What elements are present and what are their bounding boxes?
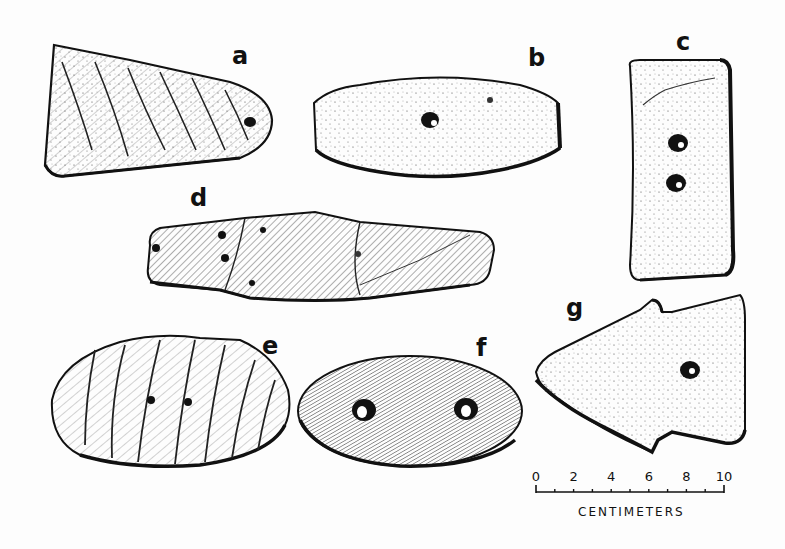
perforation bbox=[666, 174, 686, 192]
artifact-d bbox=[148, 212, 494, 301]
perforation bbox=[421, 112, 439, 128]
perforation bbox=[668, 134, 688, 152]
artifact-e bbox=[52, 336, 290, 467]
scale-tick-6: 6 bbox=[645, 470, 653, 483]
perforation bbox=[249, 280, 255, 286]
scale-tick-8: 8 bbox=[682, 470, 690, 483]
scale-bar bbox=[536, 485, 724, 493]
scale-tick-2: 2 bbox=[569, 470, 577, 483]
perforation bbox=[184, 398, 192, 406]
figure-plate: a b c d e f g 0 2 4 6 8 10 CENTIMETERS bbox=[0, 0, 785, 549]
perforation bbox=[244, 117, 256, 127]
artifact-drawings bbox=[0, 0, 785, 549]
perforation bbox=[218, 231, 226, 239]
label-f: f bbox=[476, 336, 486, 360]
perforation bbox=[152, 244, 160, 252]
perforation bbox=[221, 254, 229, 262]
label-b: b bbox=[528, 46, 545, 70]
scale-tick-10: 10 bbox=[716, 470, 733, 483]
label-c: c bbox=[676, 30, 690, 54]
label-g: g bbox=[566, 296, 583, 320]
artifact-b bbox=[314, 78, 560, 177]
scale-tick-4: 4 bbox=[607, 470, 615, 483]
label-e: e bbox=[262, 334, 278, 358]
label-d: d bbox=[190, 186, 207, 210]
artifact-f bbox=[298, 356, 522, 466]
perforation bbox=[260, 227, 266, 233]
label-a: a bbox=[232, 44, 248, 68]
scale-unit-label: CENTIMETERS bbox=[578, 506, 685, 518]
scale-tick-0: 0 bbox=[532, 470, 540, 483]
artifact-c bbox=[630, 60, 734, 280]
perforation bbox=[147, 396, 155, 404]
